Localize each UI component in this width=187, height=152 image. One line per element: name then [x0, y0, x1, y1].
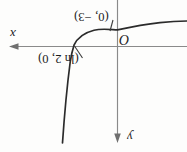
graph-figure: x y O (0, −3) (ln 2, 0)	[0, 0, 187, 152]
y-intercept-label: (0, −3)	[74, 10, 109, 23]
y-axis-label: y	[127, 131, 133, 144]
x-axis-arrowhead-icon	[9, 43, 19, 50]
origin-label: O	[119, 32, 129, 46]
x-axis-label: x	[10, 28, 16, 41]
x-intercept-label: (ln 2, 0)	[38, 52, 79, 65]
x-axis	[9, 43, 187, 50]
y-axis	[114, 0, 121, 143]
y-axis-arrowhead-icon	[114, 134, 121, 144]
